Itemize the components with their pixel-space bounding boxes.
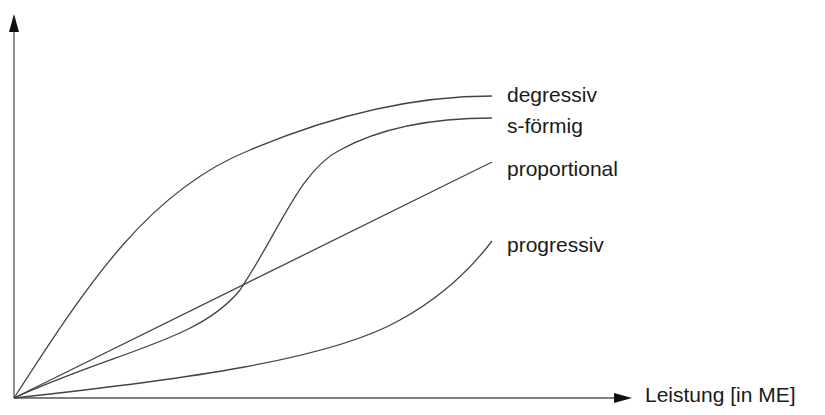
label-degressiv: degressiv <box>507 84 597 105</box>
y-axis-arrow-icon <box>9 14 19 32</box>
line-degressiv <box>14 96 492 398</box>
line-progressiv <box>14 241 492 398</box>
chart-canvas <box>0 0 825 415</box>
line-s-foermig <box>14 118 492 398</box>
label-progressiv: progressiv <box>507 234 604 255</box>
x-axis-label: Leistung [in ME] <box>645 384 796 405</box>
x-axis-arrow-icon <box>614 393 632 403</box>
line-proportional <box>14 162 492 398</box>
label-s-foermig: s-förmig <box>507 115 583 136</box>
label-proportional: proportional <box>507 158 618 179</box>
